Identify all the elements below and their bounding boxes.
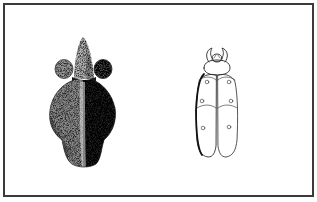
beetle-shadow-edge <box>196 74 204 155</box>
beetle-curve <box>197 105 216 108</box>
figurine-top-point <box>74 37 94 79</box>
beetle-curve <box>218 77 235 80</box>
beetle-curve <box>218 105 237 108</box>
beetle-right-elytron <box>218 74 238 157</box>
left-knob <box>55 60 73 79</box>
illustration-artwork <box>0 0 317 202</box>
stippled-figurine <box>40 37 123 173</box>
beetle-outline <box>196 48 238 157</box>
right-knob <box>94 60 112 79</box>
figurine-body <box>40 78 123 173</box>
